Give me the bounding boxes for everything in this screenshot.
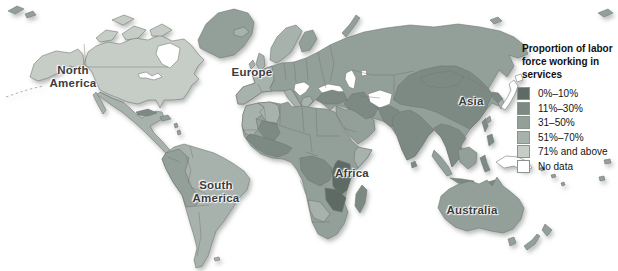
legend-swatch-31-50 xyxy=(517,116,530,129)
region-somalia xyxy=(354,147,372,168)
legend-title: Proportion of labor force working in ser… xyxy=(517,42,617,81)
region-borneo xyxy=(458,147,477,169)
continent-label-south-america: South America xyxy=(193,179,240,204)
region-finland xyxy=(299,30,317,52)
legend-swatch-0-10 xyxy=(517,87,530,100)
legend-swatch-71-above xyxy=(517,145,530,158)
legend-item: No data xyxy=(517,160,617,173)
region-tasmania xyxy=(508,237,516,246)
region-taiwan xyxy=(487,116,491,123)
region-lesser-antilles xyxy=(174,123,181,135)
legend-swatch-no-data xyxy=(517,160,530,173)
legend-swatch-51-70 xyxy=(517,131,530,144)
aleutian-islands-line xyxy=(6,86,44,97)
continent-label-europe: Europe xyxy=(232,66,273,79)
legend-item: 71% and above xyxy=(517,145,617,158)
legend: Proportion of labor force working in ser… xyxy=(517,42,617,174)
legend-swatch-11-30 xyxy=(517,102,530,115)
region-scandinavia xyxy=(270,25,302,63)
legend-label: 11%–30% xyxy=(538,102,583,115)
region-sulawesi xyxy=(480,155,490,172)
region-sri-lanka xyxy=(411,161,417,168)
legend-item: 31–50% xyxy=(517,116,617,129)
legend-label: 51%–70% xyxy=(538,131,584,144)
legend-label: 71% and above xyxy=(538,145,608,158)
legend-item: 0%–10% xyxy=(517,87,617,100)
legend-label: 31–50% xyxy=(538,116,575,129)
region-new-zealand xyxy=(524,224,552,250)
region-novaya-zemlya xyxy=(342,15,360,37)
legend-label: 0%–10% xyxy=(538,87,578,100)
continent-label-australia: Australia xyxy=(446,204,497,217)
continent-label-asia: Asia xyxy=(458,95,483,108)
legend-label: No data xyxy=(538,160,573,173)
services-labor-world-map-figure: North America Europe Asia Africa South A… xyxy=(0,0,618,271)
continent-label-africa: Africa xyxy=(335,167,369,180)
region-madagascar xyxy=(355,185,367,213)
legend-item: 11%–30% xyxy=(517,102,617,115)
legend-item: 51%–70% xyxy=(517,131,617,144)
region-arctic-islands-nw xyxy=(8,6,36,18)
region-falklands xyxy=(214,257,220,261)
region-arctic-islands-ne xyxy=(490,9,613,24)
continent-label-north-america: North America xyxy=(50,64,97,89)
